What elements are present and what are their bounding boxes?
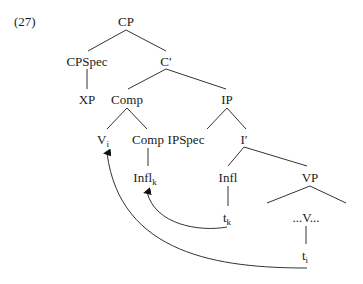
edge-comp-v <box>107 108 127 129</box>
node-t-i: ti <box>302 248 309 265</box>
edge-cbar-ip <box>166 69 226 89</box>
node-v-i: Vi <box>97 132 109 149</box>
edge-ibar-infl <box>228 147 244 166</box>
node-comp-upper: Comp <box>111 92 143 107</box>
node-t-k: tk <box>223 210 232 227</box>
edge-vp-right <box>310 186 346 203</box>
node-c-bar: C′ <box>160 54 172 69</box>
node-infl: Infl <box>219 170 238 185</box>
node-ipspec: IPSpec <box>168 132 205 147</box>
node-i-bar: I′ <box>240 132 247 147</box>
node-infl-k-subscript: k <box>152 177 157 187</box>
node-v-subscript: i <box>106 139 109 149</box>
node-ip: IP <box>221 92 233 107</box>
node-cpspec: CPSpec <box>66 54 107 69</box>
edge-ip-ipspec <box>207 108 227 129</box>
node-cp: CP <box>118 14 134 29</box>
edge-cbar-comp <box>128 69 166 89</box>
edge-ip-ibar <box>227 108 246 129</box>
node-t-k-subscript: k <box>227 217 232 227</box>
node-t-i-subscript: i <box>306 255 309 265</box>
edge-vp-left <box>267 186 310 203</box>
node-infl-k-label: Infl <box>133 170 152 185</box>
node-v-dots: ...V... <box>292 210 319 225</box>
edge-ibar-vp <box>244 147 307 166</box>
edge-cp-cpspec <box>88 30 126 51</box>
node-xp: XP <box>79 92 96 107</box>
movement-arrow-infl <box>147 192 227 228</box>
node-infl-k: Inflk <box>133 170 157 187</box>
edge-comp-comp <box>127 108 147 129</box>
node-comp-lower: Comp <box>132 132 164 147</box>
edge-cp-cbar <box>126 30 166 51</box>
example-number: (27) <box>14 14 36 29</box>
syntax-tree-diagram: (27) CP CPSpec C′ XP Comp IP Vi Comp IPS… <box>0 0 363 284</box>
node-vp: VP <box>302 170 319 185</box>
